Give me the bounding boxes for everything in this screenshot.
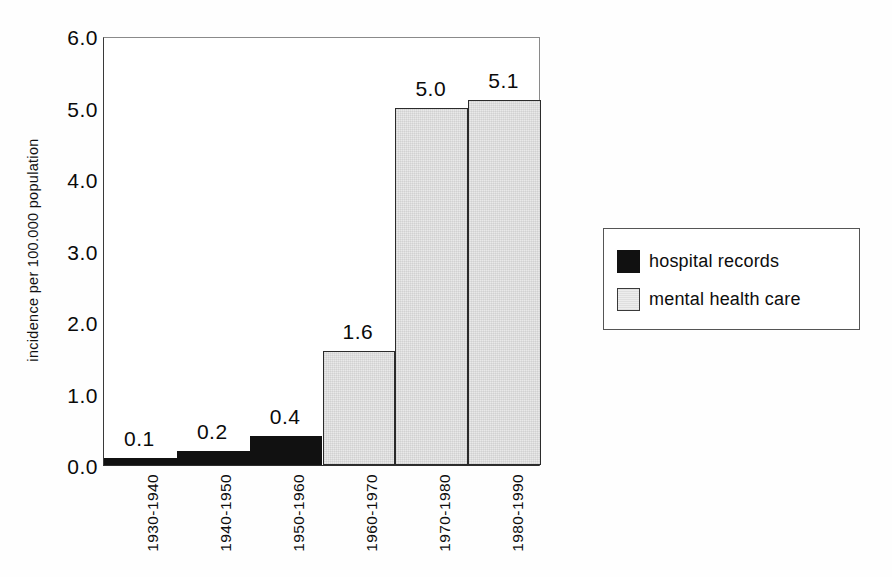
- x-tick-label: 1930-1940: [145, 474, 161, 552]
- x-tick-label: 1950-1960: [291, 474, 307, 552]
- bar-1960-1970: [323, 351, 396, 465]
- bar-1950-1960: [250, 436, 323, 465]
- bar-group: [104, 38, 539, 465]
- y-tick-label: 0.0: [52, 456, 98, 477]
- y-axis-tick-labels: 6.05.04.03.02.01.00.0: [48, 0, 98, 577]
- bar-1940-1950: [177, 451, 250, 465]
- x-tick-label: 1970-1980: [437, 474, 453, 552]
- y-tick-label: 3.0: [52, 242, 98, 263]
- legend-item-2[interactable]: mental health care: [617, 280, 859, 318]
- legend-item-1[interactable]: hospital records: [617, 242, 859, 280]
- plot-area: [103, 37, 540, 466]
- x-tick-label: 1940-1950: [218, 474, 234, 552]
- y-tick-label: 4.0: [52, 170, 98, 191]
- bar-chart-figure: incidence per 100.000 population 6.05.04…: [0, 0, 892, 577]
- bar-value-label: 5.0: [394, 78, 467, 99]
- bar-1970-1980: [395, 108, 468, 466]
- y-tick-label: 6.0: [52, 27, 98, 48]
- legend: hospital recordsmental health care: [603, 228, 860, 330]
- y-tick-label: 5.0: [52, 99, 98, 120]
- bar-value-label: 5.1: [467, 70, 540, 91]
- bar-value-label: 0.4: [249, 406, 322, 427]
- bar-1980-1990: [468, 100, 541, 465]
- y-tick-label: 1.0: [52, 385, 98, 406]
- x-axis-tick-labels: 1930-19401940-19501950-19601960-19701970…: [103, 466, 540, 577]
- bar-1930-1940: [104, 458, 177, 465]
- legend-swatch-icon: [617, 288, 640, 311]
- x-tick-label: 1980-1990: [510, 474, 526, 552]
- legend-swatch-icon: [617, 250, 640, 273]
- bar-value-label: 1.6: [322, 321, 395, 342]
- bar-value-label: 0.2: [176, 421, 249, 442]
- legend-label: mental health care: [649, 290, 801, 308]
- legend-label: hospital records: [649, 252, 779, 270]
- y-axis-title: incidence per 100.000 population: [25, 100, 41, 400]
- y-tick-label: 2.0: [52, 313, 98, 334]
- bar-value-label: 0.1: [103, 428, 176, 449]
- x-tick-label: 1960-1970: [364, 474, 380, 552]
